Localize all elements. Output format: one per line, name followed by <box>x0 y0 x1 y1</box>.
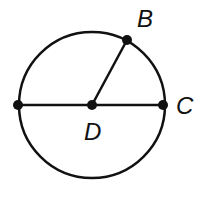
label-b: B <box>137 5 153 32</box>
circle-diagram: B C D <box>0 0 211 203</box>
point-a <box>13 100 23 110</box>
radius-db <box>92 40 127 105</box>
label-d: D <box>84 118 101 145</box>
point-c <box>158 100 168 110</box>
point-d <box>87 100 97 110</box>
label-c: C <box>176 92 194 119</box>
point-b <box>122 35 132 45</box>
